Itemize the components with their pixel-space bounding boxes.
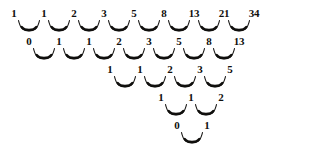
arc-row-3-2 xyxy=(175,77,196,88)
number-row-3-4: 5 xyxy=(227,64,232,75)
arc-layer xyxy=(0,0,310,153)
arc-row-2-3 xyxy=(124,49,145,60)
arc-row-1-4 xyxy=(139,21,160,32)
arc-row-1-0 xyxy=(19,21,40,32)
number-row-1-8: 34 xyxy=(249,8,260,19)
arc-row-4-0 xyxy=(166,105,187,116)
number-row-2-6: 8 xyxy=(206,36,211,47)
number-row-3-3: 3 xyxy=(197,64,202,75)
number-row-4-0: 1 xyxy=(158,92,163,103)
arc-row-1-6 xyxy=(199,21,220,32)
number-row-5-0: 0 xyxy=(174,120,179,131)
number-row-3-1: 1 xyxy=(137,64,142,75)
number-row-3-0: 1 xyxy=(107,64,112,75)
number-row-2-1: 1 xyxy=(56,36,61,47)
arc-row-2-4 xyxy=(154,49,175,60)
number-row-2-4: 3 xyxy=(146,36,151,47)
number-row-2-0: 0 xyxy=(26,36,31,47)
arc-row-2-6 xyxy=(214,49,235,60)
arc-row-1-1 xyxy=(49,21,70,32)
number-row-3-2: 2 xyxy=(167,64,172,75)
arc-row-2-1 xyxy=(64,49,85,60)
arc-row-2-0 xyxy=(34,49,55,60)
number-row-1-7: 21 xyxy=(219,8,230,19)
number-row-4-1: 1 xyxy=(188,92,193,103)
arc-row-3-0 xyxy=(115,77,136,88)
fibonacci-difference-triangle: 1123581321340112358131123511201 xyxy=(0,0,310,153)
number-row-1-6: 13 xyxy=(189,8,200,19)
arc-row-3-1 xyxy=(145,77,166,88)
number-row-2-3: 2 xyxy=(116,36,121,47)
number-row-4-2: 2 xyxy=(218,92,223,103)
number-row-1-5: 8 xyxy=(161,8,166,19)
number-row-1-1: 1 xyxy=(41,8,46,19)
arc-row-1-5 xyxy=(169,21,190,32)
arc-row-1-2 xyxy=(79,21,100,32)
number-row-5-1: 1 xyxy=(204,120,209,131)
number-row-1-0: 1 xyxy=(11,8,16,19)
number-row-2-7: 13 xyxy=(234,36,245,47)
arc-row-4-1 xyxy=(196,105,217,116)
number-row-1-4: 5 xyxy=(131,8,136,19)
arc-row-1-7 xyxy=(229,21,250,32)
number-row-1-2: 2 xyxy=(71,8,76,19)
arc-row-5-0 xyxy=(182,133,203,144)
number-row-2-2: 1 xyxy=(86,36,91,47)
arc-row-2-5 xyxy=(184,49,205,60)
number-row-2-5: 5 xyxy=(176,36,181,47)
arc-row-3-3 xyxy=(205,77,226,88)
number-row-1-3: 3 xyxy=(101,8,106,19)
arc-row-2-2 xyxy=(94,49,115,60)
arc-row-1-3 xyxy=(109,21,130,32)
